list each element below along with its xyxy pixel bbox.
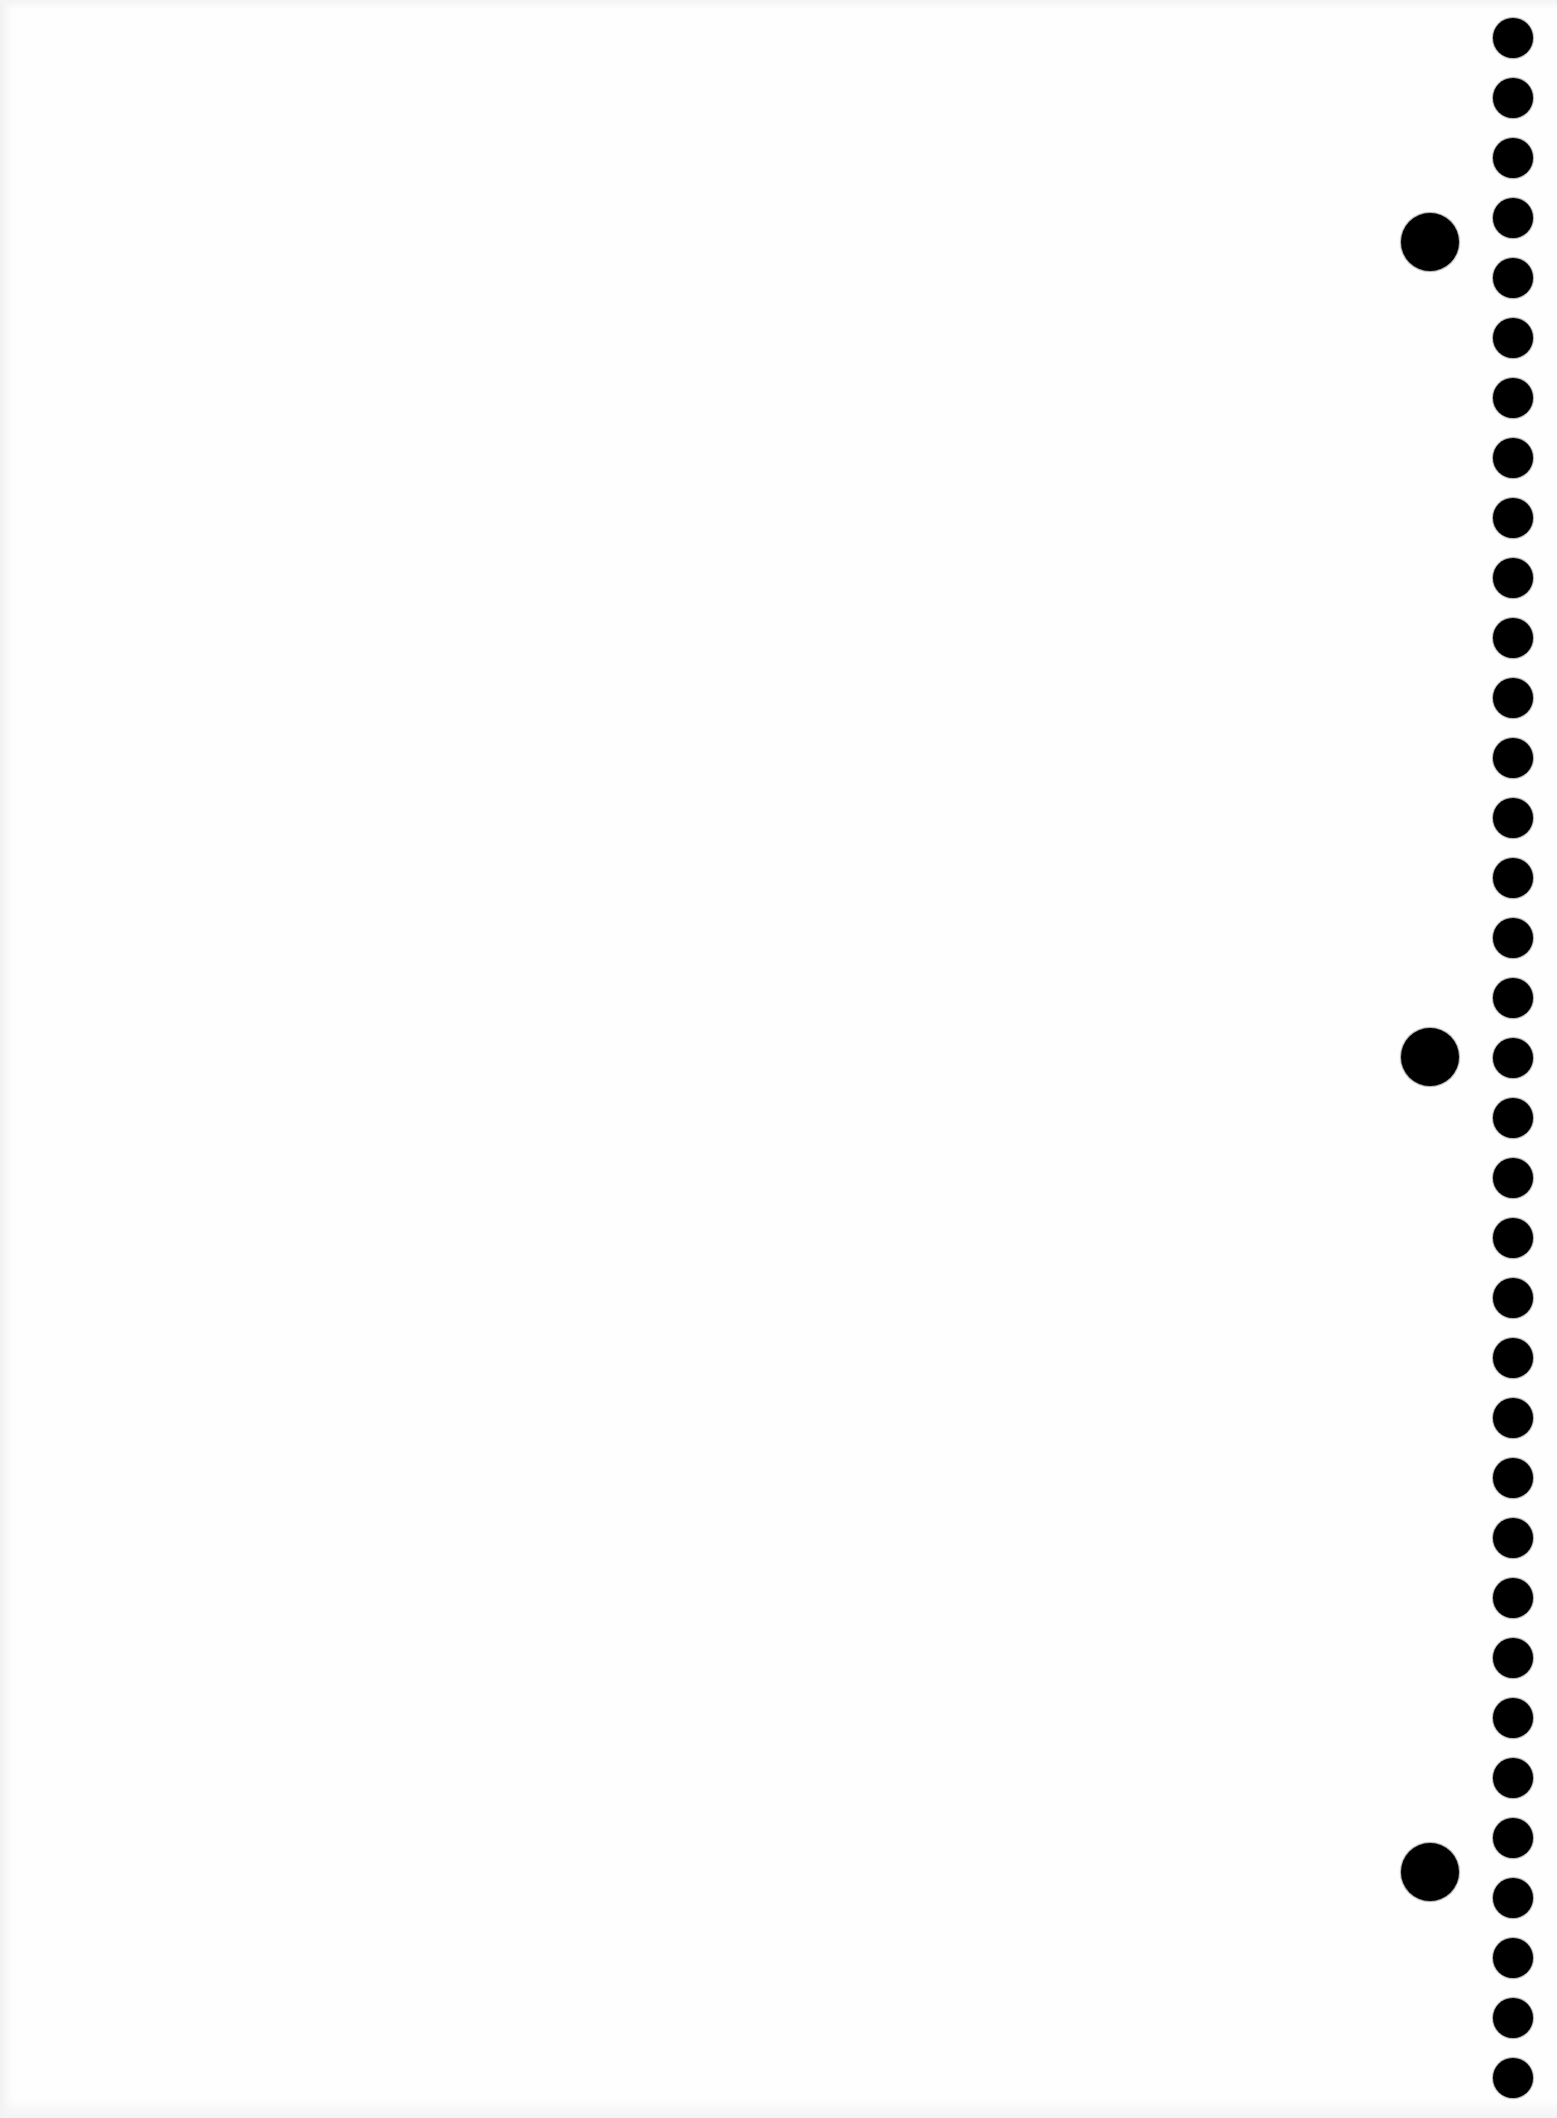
small-binding-hole bbox=[1493, 198, 1533, 238]
small-binding-hole bbox=[1493, 1398, 1533, 1438]
large-binding-hole bbox=[1401, 1028, 1459, 1086]
large-binding-hole bbox=[1401, 1843, 1459, 1901]
small-binding-hole bbox=[1493, 1578, 1533, 1618]
small-binding-hole bbox=[1493, 618, 1533, 658]
small-binding-hole bbox=[1493, 1818, 1533, 1858]
small-binding-hole bbox=[1493, 1038, 1533, 1078]
small-binding-hole bbox=[1493, 438, 1533, 478]
small-binding-hole bbox=[1493, 738, 1533, 778]
page-edge-shadow-bottom bbox=[0, 2100, 1557, 2118]
small-binding-hole bbox=[1493, 978, 1533, 1018]
small-binding-hole bbox=[1493, 558, 1533, 598]
small-binding-hole bbox=[1493, 18, 1533, 58]
small-binding-hole bbox=[1493, 1218, 1533, 1258]
small-binding-hole bbox=[1493, 918, 1533, 958]
small-binding-hole bbox=[1493, 858, 1533, 898]
small-binding-hole bbox=[1493, 1158, 1533, 1198]
small-binding-hole bbox=[1493, 1458, 1533, 1498]
small-binding-hole bbox=[1493, 1698, 1533, 1738]
small-binding-hole bbox=[1493, 1758, 1533, 1798]
small-binding-hole bbox=[1493, 1338, 1533, 1378]
small-binding-hole bbox=[1493, 2058, 1533, 2098]
small-binding-hole bbox=[1493, 1638, 1533, 1678]
small-binding-hole bbox=[1493, 498, 1533, 538]
small-binding-hole bbox=[1493, 1098, 1533, 1138]
small-binding-hole bbox=[1493, 798, 1533, 838]
page-edge-shadow-left bbox=[0, 0, 14, 2118]
page-edge-shadow-top bbox=[0, 0, 1557, 10]
small-binding-hole bbox=[1493, 78, 1533, 118]
small-binding-hole bbox=[1493, 138, 1533, 178]
large-binding-hole bbox=[1401, 213, 1459, 271]
small-binding-hole bbox=[1493, 1278, 1533, 1318]
small-binding-hole bbox=[1493, 1518, 1533, 1558]
small-binding-hole bbox=[1493, 258, 1533, 298]
small-binding-hole bbox=[1493, 678, 1533, 718]
small-binding-hole bbox=[1493, 378, 1533, 418]
small-binding-hole bbox=[1493, 318, 1533, 358]
small-binding-hole bbox=[1493, 1998, 1533, 2038]
small-binding-hole bbox=[1493, 1878, 1533, 1918]
small-binding-hole bbox=[1493, 1938, 1533, 1978]
blank-page bbox=[0, 0, 1557, 2118]
